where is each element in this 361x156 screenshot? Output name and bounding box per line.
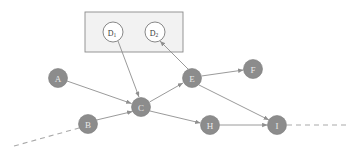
node-f-label: F bbox=[250, 65, 255, 75]
node-c-label: C bbox=[138, 103, 144, 113]
node-h[interactable]: H bbox=[201, 116, 220, 135]
edge-b-to-c bbox=[97, 112, 133, 121]
dashed-edge-left-tail bbox=[14, 128, 79, 146]
edge-c-to-h bbox=[150, 111, 201, 123]
edge-e-to-i bbox=[199, 85, 269, 120]
node-a-label: A bbox=[55, 74, 62, 84]
node-f[interactable]: F bbox=[244, 60, 263, 79]
graph-diagram: A B C E F H I bbox=[0, 0, 361, 156]
edges-layer bbox=[67, 41, 269, 125]
node-d1-subscript: 1 bbox=[114, 32, 117, 38]
node-h-label: H bbox=[207, 121, 214, 131]
node-i[interactable]: I bbox=[268, 116, 287, 135]
node-b[interactable]: B bbox=[79, 115, 98, 134]
node-e-label: E bbox=[189, 74, 195, 84]
node-i-label: I bbox=[276, 121, 279, 131]
node-d2[interactable]: D2 bbox=[145, 22, 165, 42]
nodes-layer: A B C E F H I bbox=[49, 60, 287, 135]
graph-canvas: A B C E F H I bbox=[0, 0, 361, 156]
node-c[interactable]: C bbox=[132, 98, 151, 117]
edge-a-to-c bbox=[67, 81, 132, 104]
group-box bbox=[85, 12, 183, 52]
node-d2-subscript: 2 bbox=[156, 32, 159, 38]
edge-e-to-f bbox=[202, 70, 244, 76]
node-b-label: B bbox=[85, 120, 91, 130]
edge-c-to-e bbox=[150, 83, 184, 102]
node-e[interactable]: E bbox=[183, 69, 202, 88]
node-a[interactable]: A bbox=[49, 69, 68, 88]
dashed-edges-layer bbox=[14, 125, 350, 146]
node-d1[interactable]: D1 bbox=[103, 22, 123, 42]
